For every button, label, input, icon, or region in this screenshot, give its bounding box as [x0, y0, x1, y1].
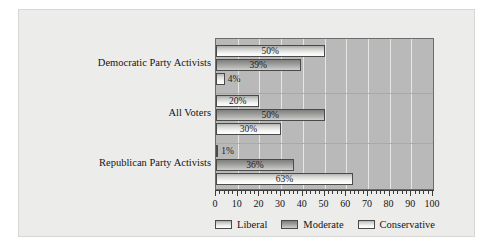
chart-card: Democratic Party Activists All Voters Re…: [18, 9, 475, 237]
x-tick-label: 100: [425, 198, 440, 209]
x-axis-minor-tick: [232, 191, 233, 194]
bar-conservative-1: [216, 73, 225, 85]
x-axis-tick-labels: 0102030405060708090100: [215, 198, 434, 212]
x-axis-major-tick: [367, 191, 368, 196]
chart-screenshot: Democratic Party Activists All Voters Re…: [0, 0, 493, 247]
x-axis-minor-tick: [284, 191, 285, 194]
x-axis-minor-tick: [419, 191, 420, 194]
group-separator: [216, 143, 433, 144]
x-axis-minor-tick: [315, 191, 316, 194]
x-tick-label: 70: [362, 198, 372, 209]
x-axis-minor-tick: [306, 191, 307, 194]
x-axis-minor-tick: [241, 191, 242, 194]
x-axis-minor-tick: [428, 191, 429, 194]
legend-item-moderate[interactable]: Moderate: [281, 219, 343, 230]
x-axis-minor-tick: [254, 191, 255, 194]
chart-legend: LiberalModerateConservative: [215, 216, 435, 232]
x-axis-minor-tick: [371, 191, 372, 194]
x-axis-major-tick: [389, 191, 390, 196]
x-axis: [215, 190, 434, 198]
x-axis-minor-tick: [276, 191, 277, 194]
bar-value-label: 50%: [262, 45, 279, 57]
x-tick-label: 50: [319, 198, 329, 209]
x-axis-minor-tick: [376, 191, 377, 194]
bar-value-label: 63%: [276, 173, 293, 185]
legend-item-conservative[interactable]: Conservative: [358, 219, 435, 230]
x-axis-major-tick: [258, 191, 259, 196]
x-axis-minor-tick: [332, 191, 333, 194]
bar-liberal-3: [216, 145, 218, 157]
x-axis-minor-tick: [328, 191, 329, 194]
x-axis-minor-tick: [380, 191, 381, 194]
x-axis-minor-tick: [406, 191, 407, 194]
x-axis-major-tick: [280, 191, 281, 196]
legend-label: Conservative: [380, 219, 435, 230]
x-axis-minor-tick: [245, 191, 246, 194]
x-axis-minor-tick: [219, 191, 220, 194]
x-axis-minor-tick: [267, 191, 268, 194]
x-tick-label: 20: [253, 198, 263, 209]
x-axis-minor-tick: [337, 191, 338, 194]
bar-value-label: 1%: [221, 145, 234, 157]
x-axis-major-tick: [302, 191, 303, 196]
plot-area: 50%39%4%20%50%30%1%36%63%: [215, 38, 434, 190]
legend-label: Moderate: [303, 219, 343, 230]
bar-group: 50%39%4%20%50%30%1%36%63%: [216, 39, 433, 189]
x-axis-major-tick: [432, 191, 433, 196]
x-axis-minor-tick: [341, 191, 342, 194]
category-label-republican-party-activists: Republican Party Activists: [99, 157, 211, 168]
bar-value-label: 30%: [240, 123, 257, 135]
bar-value-label: 50%: [262, 109, 279, 121]
conservative-swatch: [358, 220, 375, 229]
x-tick-label: 40: [297, 198, 307, 209]
x-axis-minor-tick: [384, 191, 385, 194]
x-axis-major-tick: [324, 191, 325, 196]
x-axis-minor-tick: [415, 191, 416, 194]
group-separator: [216, 93, 433, 94]
x-axis-major-tick: [345, 191, 346, 196]
bar-value-label: 39%: [250, 59, 267, 71]
x-axis-minor-tick: [423, 191, 424, 194]
x-axis-minor-tick: [228, 191, 229, 194]
x-tick-label: 90: [405, 198, 415, 209]
x-axis-minor-tick: [402, 191, 403, 194]
x-tick-label: 60: [340, 198, 350, 209]
x-axis-minor-tick: [263, 191, 264, 194]
legend-item-liberal[interactable]: Liberal: [215, 219, 267, 230]
x-axis-minor-tick: [297, 191, 298, 194]
category-label-democratic-party-activists: Democratic Party Activists: [98, 57, 211, 68]
moderate-swatch: [281, 220, 298, 229]
x-tick-label: 0: [213, 198, 218, 209]
bar-value-label: 4%: [228, 73, 241, 85]
x-axis-minor-tick: [289, 191, 290, 194]
category-label-all-voters: All Voters: [169, 107, 212, 118]
x-axis-minor-tick: [310, 191, 311, 194]
legend-label: Liberal: [237, 219, 267, 230]
x-axis-minor-tick: [358, 191, 359, 194]
x-axis-minor-tick: [319, 191, 320, 194]
x-axis-major-tick: [410, 191, 411, 196]
category-label-group: Democratic Party Activists All Voters Re…: [39, 38, 211, 190]
x-axis-minor-tick: [397, 191, 398, 194]
x-axis-minor-tick: [350, 191, 351, 194]
x-tick-label: 30: [275, 198, 285, 209]
x-tick-label: 80: [384, 198, 394, 209]
bar-value-label: 36%: [246, 159, 263, 171]
x-axis-minor-tick: [250, 191, 251, 194]
x-axis-minor-tick: [224, 191, 225, 194]
x-axis-major-tick: [215, 191, 216, 196]
x-tick-label: 10: [232, 198, 242, 209]
bar-value-label: 20%: [229, 95, 246, 107]
x-axis-minor-tick: [293, 191, 294, 194]
x-axis-minor-tick: [393, 191, 394, 194]
x-axis-minor-tick: [363, 191, 364, 194]
x-axis-minor-tick: [354, 191, 355, 194]
x-axis-minor-tick: [271, 191, 272, 194]
liberal-swatch: [215, 220, 232, 229]
x-axis-major-tick: [237, 191, 238, 196]
